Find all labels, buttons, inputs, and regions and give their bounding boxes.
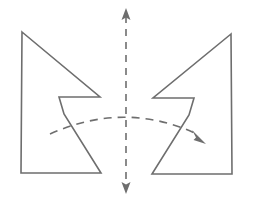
axis-arrow-down-icon	[122, 182, 131, 194]
figure-canvas: Reflection symmetry of a notched arrow p…	[0, 0, 253, 210]
arc-arrow-end-icon	[192, 130, 206, 144]
right-arrow-polygon	[152, 34, 232, 174]
left-arrow-polygon	[21, 32, 101, 173]
reflection-symmetry-diagram: Reflection symmetry of a notched arrow p…	[0, 0, 253, 210]
